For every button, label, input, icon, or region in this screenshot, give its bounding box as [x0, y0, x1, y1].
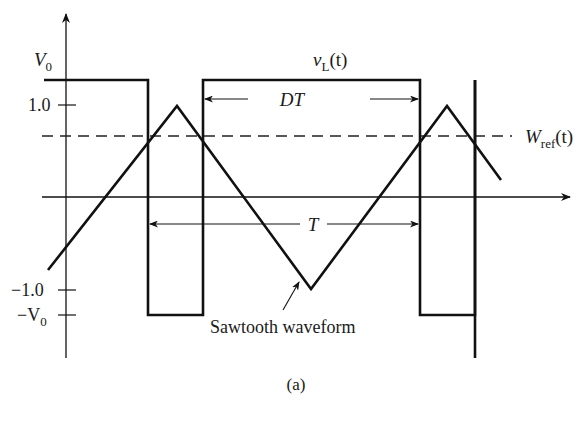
pwm-diagram: V0 1.0 −1.0 −V0 vL(t) DT T Wref(t) Sawto…	[0, 0, 583, 428]
label-v0: V0	[34, 49, 52, 74]
label-one: 1.0	[28, 95, 51, 115]
sawtooth-pointer	[283, 282, 299, 310]
label-wref: Wref(t)	[525, 126, 573, 151]
figure-caption: (a)	[287, 375, 306, 394]
label-neg-v0: −V0	[17, 305, 47, 329]
label-sawtooth: Sawtooth waveform	[210, 317, 355, 337]
label-dt: DT	[279, 89, 306, 110]
label-vl: vL(t)	[313, 49, 347, 74]
label-t: T	[308, 214, 320, 235]
label-neg-one: −1.0	[11, 280, 44, 300]
